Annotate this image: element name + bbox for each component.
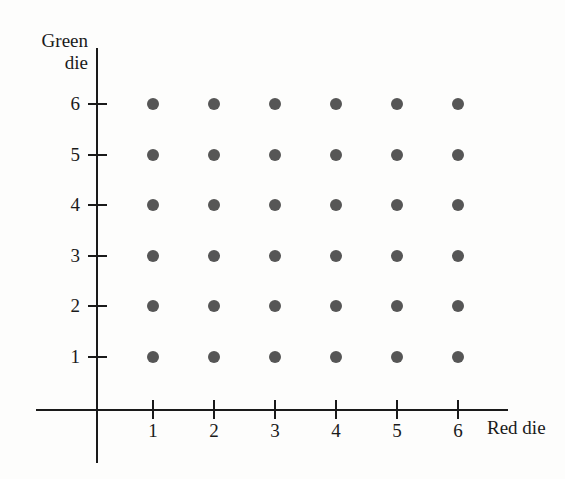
- y-tick-3: [88, 255, 107, 257]
- data-point: [269, 98, 281, 110]
- data-point: [269, 300, 281, 312]
- data-point: [452, 199, 464, 211]
- data-point: [147, 300, 159, 312]
- data-point: [147, 199, 159, 211]
- sample-space-scatter-plot: Green die Red die 123456 123456: [0, 0, 565, 479]
- data-point: [147, 351, 159, 363]
- y-tick-6: [88, 103, 107, 105]
- x-tick-6: [457, 400, 459, 419]
- y-tick-label-5: 5: [50, 145, 80, 164]
- y-axis-title-line-2: die: [8, 52, 88, 74]
- data-point: [330, 351, 342, 363]
- x-tick-label-1: 1: [138, 421, 168, 440]
- data-point: [147, 250, 159, 262]
- data-point: [147, 149, 159, 161]
- data-point: [208, 300, 220, 312]
- data-point: [391, 149, 403, 161]
- y-tick-label-1: 1: [50, 347, 80, 366]
- data-point: [208, 351, 220, 363]
- data-point: [208, 250, 220, 262]
- data-point: [147, 98, 159, 110]
- y-tick-5: [88, 154, 107, 156]
- data-point: [208, 98, 220, 110]
- y-tick-label-3: 3: [50, 246, 80, 265]
- data-point: [330, 250, 342, 262]
- y-tick-label-4: 4: [50, 195, 80, 214]
- data-point: [391, 98, 403, 110]
- data-point: [452, 351, 464, 363]
- x-tick-5: [396, 400, 398, 419]
- y-axis-title: Green die: [8, 30, 88, 75]
- y-tick-2: [88, 305, 107, 307]
- x-tick-3: [274, 400, 276, 419]
- x-tick-2: [213, 400, 215, 419]
- data-point: [330, 149, 342, 161]
- data-point: [269, 351, 281, 363]
- x-tick-label-3: 3: [260, 421, 290, 440]
- x-tick-4: [335, 400, 337, 419]
- x-tick-label-5: 5: [382, 421, 412, 440]
- data-point: [269, 250, 281, 262]
- data-point: [330, 300, 342, 312]
- data-point: [330, 199, 342, 211]
- x-axis-line: [36, 409, 508, 411]
- y-tick-4: [88, 204, 107, 206]
- data-point: [452, 250, 464, 262]
- data-point: [452, 98, 464, 110]
- x-axis-title: Red die: [487, 417, 546, 439]
- data-point: [269, 199, 281, 211]
- x-tick-label-6: 6: [443, 421, 473, 440]
- x-tick-label-4: 4: [321, 421, 351, 440]
- x-tick-1: [152, 400, 154, 419]
- data-point: [208, 149, 220, 161]
- x-tick-label-2: 2: [199, 421, 229, 440]
- data-point: [330, 98, 342, 110]
- data-point: [391, 351, 403, 363]
- data-point: [391, 250, 403, 262]
- data-point: [391, 199, 403, 211]
- data-point: [208, 199, 220, 211]
- y-tick-label-6: 6: [50, 94, 80, 113]
- y-tick-1: [88, 356, 107, 358]
- y-axis-title-line-1: Green: [8, 30, 88, 52]
- data-point: [269, 149, 281, 161]
- data-point: [391, 300, 403, 312]
- data-point: [452, 149, 464, 161]
- y-tick-label-2: 2: [50, 296, 80, 315]
- data-point: [452, 300, 464, 312]
